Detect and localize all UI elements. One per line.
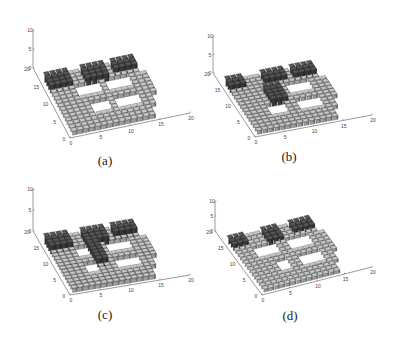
bars <box>43 219 156 293</box>
x-tick-label: 10 <box>128 287 134 293</box>
x-tick-label: 20 <box>370 117 376 123</box>
x-tick-label: 15 <box>158 121 164 127</box>
y-tick-label: 15 <box>33 84 39 90</box>
z-tick-label: 10 <box>209 198 215 204</box>
z-tick-label: 10 <box>27 27 33 33</box>
y-tick-label: 10 <box>230 261 236 267</box>
x-tick-label: 0 <box>255 139 258 145</box>
z-tick-label: 0 <box>29 65 32 71</box>
x-tick-label: 15 <box>343 276 349 282</box>
y-tick-label: 0 <box>63 136 66 142</box>
x-tick-label: 5 <box>100 134 103 140</box>
y-tick-label: 5 <box>243 277 246 283</box>
panel-b: 05101520051015200510 <box>204 33 376 145</box>
y-tick-label: 0 <box>248 135 251 141</box>
z-tick-label: 10 <box>27 186 33 192</box>
z-tick-label: 5 <box>29 207 32 213</box>
x-tick-label: 10 <box>315 283 321 289</box>
caption-d: (d) <box>282 308 297 324</box>
y-tick-label: 0 <box>63 293 66 299</box>
caption-c: (c) <box>98 307 112 323</box>
z-tick-label: 0 <box>209 70 212 76</box>
y-tick-label: 5 <box>53 119 56 125</box>
y-tick-label: 10 <box>43 101 49 107</box>
y-tick-label: 5 <box>53 277 56 283</box>
z-tick-label: 0 <box>211 228 214 234</box>
y-tick-label: 5 <box>237 119 240 125</box>
figure: 0510152005101520051005101520051015200510… <box>0 0 400 340</box>
x-tick-label: 0 <box>70 297 73 303</box>
x-tick-label: 10 <box>128 128 134 134</box>
z-tick-label: 5 <box>209 52 212 58</box>
x-tick-label: 0 <box>262 297 265 303</box>
panel-d: 05101520051015200510 <box>206 198 376 303</box>
x-tick-label: 20 <box>370 269 376 275</box>
panel-c: 05101520051015200510 <box>24 186 194 303</box>
x-tick-label: 20 <box>188 115 194 121</box>
caption-a: (a) <box>98 153 112 169</box>
x-tick-label: 5 <box>289 290 292 296</box>
y-tick-label: 15 <box>218 245 224 251</box>
panel-a: 05101520051015200510 <box>24 27 194 146</box>
bars <box>224 60 338 134</box>
caption-b: (b) <box>281 149 296 165</box>
x-tick-label: 5 <box>284 134 287 140</box>
y-tick-label: 10 <box>225 103 231 109</box>
y-tick-label: 15 <box>215 87 221 93</box>
y-tick-label: 10 <box>43 261 49 267</box>
z-tick-label: 10 <box>207 33 213 39</box>
x-tick-label: 15 <box>341 123 347 129</box>
z-tick-label: 5 <box>211 213 214 219</box>
x-tick-label: 5 <box>100 292 103 298</box>
z-tick-label: 5 <box>29 46 32 52</box>
y-tick-label: 0 <box>255 293 258 299</box>
x-tick-label: 0 <box>70 140 73 146</box>
x-tick-label: 20 <box>188 277 194 283</box>
z-tick-label: 0 <box>29 228 32 234</box>
x-tick-label: 15 <box>158 282 164 288</box>
x-tick-label: 10 <box>312 128 318 134</box>
bar3d-plots: 0510152005101520051005101520051015200510… <box>0 0 400 340</box>
bars <box>43 54 156 135</box>
y-tick-label: 15 <box>33 245 39 251</box>
